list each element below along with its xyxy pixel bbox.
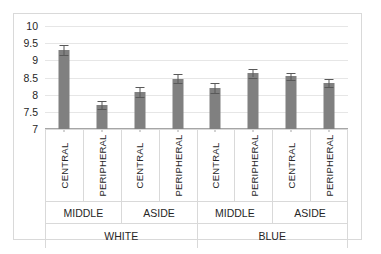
- error-bar-cap-lower: [325, 87, 334, 88]
- error-bar-cap-lower: [249, 78, 258, 79]
- y-axis-tick-label: 9: [32, 55, 38, 66]
- error-bar-cap-upper: [211, 83, 220, 84]
- y-axis-tick-label: 8: [32, 89, 38, 100]
- category-label-leaf: PERIPHERAL: [310, 129, 348, 201]
- error-bar-cap-upper: [287, 73, 296, 74]
- y-axis-tick-label: 7: [32, 124, 38, 135]
- category-row-position: MIDDLEASIDEMIDDLEASIDE: [45, 201, 348, 223]
- category-row-color: WHITEBLUE: [45, 223, 348, 248]
- error-bar-cap-upper: [325, 79, 334, 80]
- error-bar-cap-lower: [287, 80, 296, 81]
- category-label-color: BLUE: [197, 223, 349, 248]
- bar[interactable]: [172, 79, 183, 129]
- error-bar-stem: [291, 73, 292, 81]
- bar-slot[interactable]: [197, 26, 235, 129]
- error-bar-cap-lower: [173, 83, 182, 84]
- category-label-position-text: MIDDLE: [64, 207, 104, 219]
- error-bar-cap-lower: [211, 93, 220, 94]
- category-label-leaf-text: CENTRAL: [59, 143, 70, 189]
- bar[interactable]: [58, 50, 69, 129]
- error-bar-cap-upper: [249, 69, 258, 70]
- bar[interactable]: [210, 88, 221, 129]
- error-bar-stem: [215, 83, 216, 93]
- y-axis-tick-label: 7.5: [23, 107, 38, 118]
- error-bar-stem: [139, 87, 140, 97]
- y-axis-tick-labels: 77.588.599.510: [14, 26, 42, 129]
- bar[interactable]: [286, 76, 297, 129]
- category-label-leaf-text: CENTRAL: [286, 143, 297, 189]
- category-label-leaf-text: PERIPHERAL: [248, 134, 259, 196]
- category-label-leaf: CENTRAL: [45, 129, 83, 201]
- bar-slot[interactable]: [83, 26, 121, 129]
- bar-slot[interactable]: [45, 26, 83, 129]
- bar-slot[interactable]: [121, 26, 159, 129]
- bar-slot[interactable]: [272, 26, 310, 129]
- category-label-leaf: CENTRAL: [272, 129, 310, 201]
- bar-slot[interactable]: [234, 26, 272, 129]
- error-bar-stem: [329, 79, 330, 87]
- category-label-leaf-text: CENTRAL: [210, 143, 221, 189]
- error-bar-stem: [253, 69, 254, 77]
- y-axis-tick-label: 9.5: [23, 38, 38, 49]
- category-label-position-text: ASIDE: [143, 207, 175, 219]
- category-label-leaf-text: CENTRAL: [135, 143, 146, 189]
- category-label-leaf-text: PERIPHERAL: [324, 134, 335, 196]
- category-label-leaf-text: PERIPHERAL: [97, 134, 108, 196]
- error-bar-cap-upper: [173, 74, 182, 75]
- plot-area: [45, 26, 348, 129]
- category-label-position: MIDDLE: [197, 201, 273, 223]
- category-label-position-text: ASIDE: [294, 207, 326, 219]
- category-label-position-text: MIDDLE: [215, 207, 255, 219]
- category-label-rows: CENTRALPERIPHERALCENTRALPERIPHERALCENTRA…: [45, 129, 348, 240]
- error-bar-cap-upper: [97, 101, 106, 102]
- category-label-color-text: BLUE: [259, 230, 286, 242]
- error-bar-cap-lower: [135, 97, 144, 98]
- category-label-leaf: PERIPHERAL: [234, 129, 272, 201]
- chart-frame: 77.588.599.510 CENTRALPERIPHERALCENTRALP…: [13, 13, 362, 240]
- y-axis-tick-label: 10: [26, 21, 38, 32]
- error-bar-stem: [101, 101, 102, 110]
- category-label-position: ASIDE: [272, 201, 348, 223]
- bar-slot[interactable]: [310, 26, 348, 129]
- category-label-color-text: WHITE: [104, 230, 138, 242]
- error-bar-stem: [177, 74, 178, 82]
- bar[interactable]: [248, 73, 259, 129]
- category-label-position: ASIDE: [121, 201, 197, 223]
- bar-slot[interactable]: [159, 26, 197, 129]
- error-bar-cap-lower: [59, 55, 68, 56]
- error-bar-cap-upper: [135, 87, 144, 88]
- category-label-color: WHITE: [45, 223, 197, 248]
- error-bar-stem: [63, 45, 64, 55]
- category-label-leaf: CENTRAL: [121, 129, 159, 201]
- category-label-leaf: PERIPHERAL: [159, 129, 197, 201]
- category-label-leaf-text: PERIPHERAL: [173, 134, 184, 196]
- y-axis-tick-label: 8.5: [23, 72, 38, 83]
- category-label-leaf: PERIPHERAL: [83, 129, 121, 201]
- error-bar-cap-lower: [97, 109, 106, 110]
- category-label-position: MIDDLE: [45, 201, 121, 223]
- category-label-leaf: CENTRAL: [197, 129, 235, 201]
- category-row-leaf: CENTRALPERIPHERALCENTRALPERIPHERALCENTRA…: [45, 129, 348, 201]
- bar[interactable]: [324, 83, 335, 129]
- error-bar-cap-upper: [59, 45, 68, 46]
